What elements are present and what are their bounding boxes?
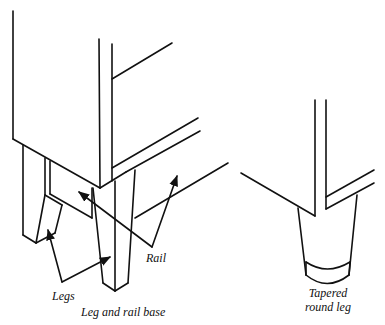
arrows [48,176,177,282]
furniture-base-diagram [0,0,385,325]
right-caption-line2: round leg [290,301,366,314]
left-caption: Leg and rail base [81,306,165,319]
back-leg [23,145,62,243]
cabinet-body [13,11,200,188]
rail-label: Rail [146,252,166,265]
tapered-leg-drawing [241,100,374,284]
front-leg [93,163,228,291]
front-rail [50,188,92,218]
diagram-canvas: Legs Rail Leg and rail base Tapered roun… [0,0,385,325]
legs-label: Legs [52,290,75,303]
right-caption-line1: Tapered [300,287,356,300]
